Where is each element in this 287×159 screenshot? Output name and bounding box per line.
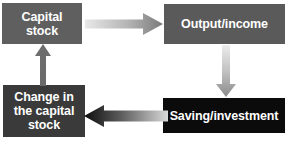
node-output-income-label: Output/income: [164, 17, 285, 31]
flow-diagram: Capital stock Output/income Change in th…: [0, 0, 287, 159]
arrow-left-icon-saving-investment-to-change-in-capital-stock: [84, 105, 168, 127]
arrow-down-icon-output-income-to-saving-investment: [215, 45, 237, 99]
node-saving-investment[interactable]: Saving/investment: [163, 98, 285, 133]
arrow-right-icon-capital-stock-to-output-income: [85, 12, 165, 36]
arrow-up-icon-change-in-capital-stock-to-capital-stock: [34, 44, 52, 86]
node-change-in-capital-stock-label: Change in the capital stock: [3, 90, 85, 132]
node-capital-stock-label: Capital stock: [2, 10, 82, 38]
node-change-in-capital-stock[interactable]: Change in the capital stock: [3, 85, 85, 137]
node-capital-stock[interactable]: Capital stock: [2, 3, 82, 44]
node-saving-investment-label: Saving/investment: [163, 109, 285, 123]
node-output-income[interactable]: Output/income: [164, 4, 285, 44]
